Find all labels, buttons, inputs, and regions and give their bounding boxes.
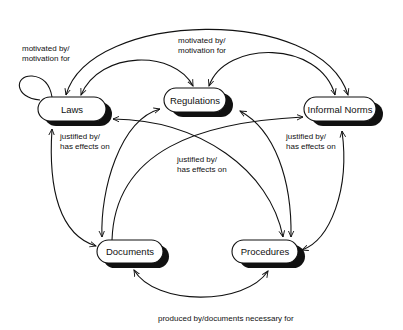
svg-text:has effects on: has effects on — [177, 165, 227, 174]
svg-text:has effects on: has effects on — [60, 142, 110, 151]
label-laws-self: motivated by/ motivation for — [22, 44, 70, 63]
svg-text:motivated by/: motivated by/ — [22, 44, 70, 53]
label-center: justified by/ has effects on — [176, 155, 227, 174]
node-procedures-label: Procedures — [241, 246, 290, 257]
label-norms-down: justified by/ has effects on — [285, 132, 336, 151]
svg-text:justified by/: justified by/ — [285, 132, 327, 141]
node-informal-norms[interactable]: Informal Norms — [304, 97, 383, 126]
svg-text:justified by/: justified by/ — [59, 132, 101, 141]
node-regulations[interactable]: Regulations — [164, 88, 233, 117]
svg-text:motivation for: motivation for — [22, 54, 70, 63]
node-laws[interactable]: Laws — [38, 97, 112, 126]
node-informal-norms-label: Informal Norms — [308, 104, 373, 115]
edge-documents-procedures — [134, 270, 268, 297]
label-bottom: produced by/documents necessary for — [158, 314, 294, 323]
edge-regulations-informal-norms — [209, 53, 335, 95]
label-top: motivated by/ motivation for — [178, 36, 226, 55]
node-regulations-label: Regulations — [170, 95, 220, 106]
edge-regulations-documents — [102, 109, 160, 237]
node-documents-label: Documents — [106, 246, 154, 257]
node-documents[interactable]: Documents — [97, 240, 169, 268]
edge-documents-informal-norms — [112, 117, 303, 240]
svg-text:has effects on: has effects on — [286, 142, 336, 151]
svg-text:motivated by/: motivated by/ — [178, 36, 226, 45]
edge-regulations-procedures — [240, 111, 291, 237]
svg-text:justified by/: justified by/ — [176, 155, 218, 164]
svg-text:motivation for: motivation for — [178, 46, 226, 55]
concept-diagram: Laws Regulations Informal Norms Document… — [0, 0, 403, 330]
edge-laws-procedures — [113, 119, 283, 237]
edge-laws-self-loop — [19, 76, 52, 100]
node-procedures[interactable]: Procedures — [232, 240, 305, 268]
label-laws-down: justified by/ has effects on — [59, 132, 110, 151]
node-laws-label: Laws — [61, 104, 83, 115]
